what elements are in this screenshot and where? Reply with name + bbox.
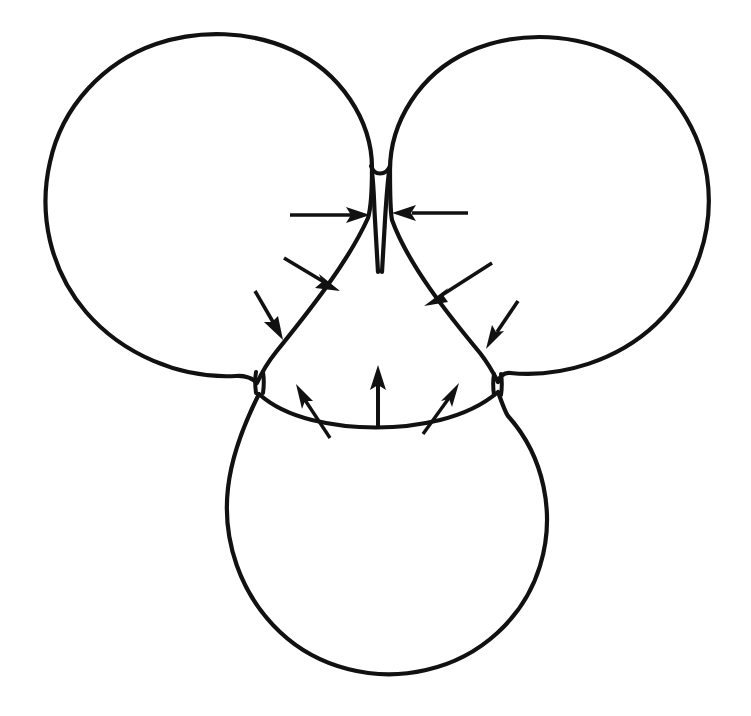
arrow-right-upper-diagonal <box>424 263 492 306</box>
arrow-shaft <box>497 301 518 332</box>
top-neck-left-wall <box>372 172 378 272</box>
three-circles-diagram <box>0 0 751 716</box>
upper-right-circle <box>390 37 709 382</box>
arrow-shaft <box>442 263 492 295</box>
arrow-shaft <box>423 398 449 434</box>
lower-left-neck-wall-outer <box>255 372 256 393</box>
circle-outlines <box>46 34 709 674</box>
top-neck-right-wall <box>382 172 389 272</box>
arrow-bottom-left-diagonal <box>296 384 330 438</box>
lower-left-neck-wall-inner <box>263 372 264 393</box>
arrow-top-right-horizontal <box>392 205 468 221</box>
figure-canvas: Three mutually contacting circular bodie… <box>0 0 751 716</box>
arrow-left-upper-diagonal <box>284 258 340 291</box>
lower-right-neck-wall-inner <box>501 374 502 395</box>
arrow-bottom-center-vertical <box>370 365 386 426</box>
arrow-shaft <box>284 258 324 282</box>
arrow-head <box>424 288 448 306</box>
arrow-left-lower-diagonal <box>255 291 283 340</box>
arrow-top-left-horizontal <box>290 207 370 223</box>
bottom-circle <box>227 392 547 674</box>
upper-left-circle <box>46 34 373 383</box>
arrow-right-lower-diagonal <box>486 301 518 349</box>
arrow-shaft <box>255 291 273 322</box>
lower-right-neck-wall-outer <box>493 374 494 395</box>
arrow-bottom-right-diagonal <box>423 383 459 434</box>
